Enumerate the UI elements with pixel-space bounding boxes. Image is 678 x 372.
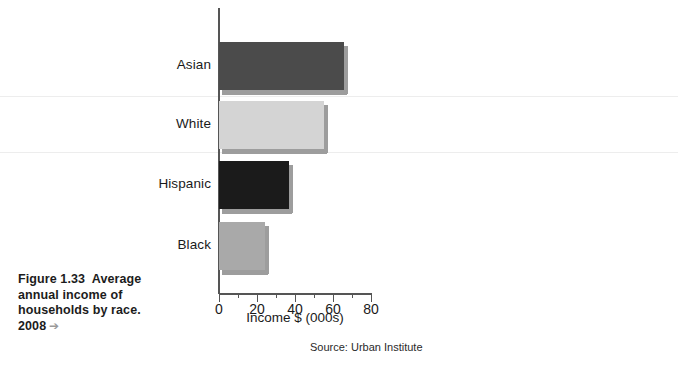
source-note: Source: Urban Institute xyxy=(310,341,423,353)
scan-artifact-line xyxy=(0,152,678,153)
arrow-right-icon: ➔ xyxy=(46,319,59,333)
x-axis-title: Income $ (000s) xyxy=(219,310,371,325)
category-label-asian: Asian xyxy=(71,57,211,72)
bar-asian xyxy=(219,42,344,90)
bar-shadow xyxy=(222,90,347,95)
bar-shadow xyxy=(222,270,268,275)
figure-container: Figure 1.33 Average annual income of hou… xyxy=(0,0,678,372)
bar-shadow xyxy=(222,149,327,154)
category-label-white: White xyxy=(71,116,211,131)
bar-shadow xyxy=(222,209,292,214)
caption-line-3: households by race. xyxy=(18,303,168,319)
bar-shadow xyxy=(344,46,348,94)
category-label-hispanic: Hispanic xyxy=(71,176,211,191)
caption-line-4: 2008➔ xyxy=(18,319,168,335)
bar-shadow xyxy=(265,226,269,274)
x-tick-minor-30 xyxy=(276,293,277,298)
caption-line-2: annual income of xyxy=(18,288,168,304)
caption-year: 2008 xyxy=(18,319,46,333)
bar-fill xyxy=(219,161,289,209)
bar-fill xyxy=(219,101,324,149)
bar-fill xyxy=(219,222,265,270)
bar-shadow xyxy=(324,105,328,153)
bar-fill xyxy=(219,42,344,90)
x-tick-minor-10 xyxy=(238,293,239,298)
figure-caption: Figure 1.33 Average annual income of hou… xyxy=(18,272,168,334)
x-tick-minor-50 xyxy=(314,293,315,298)
caption-line-1: Figure 1.33 Average xyxy=(18,272,168,288)
category-label-black: Black xyxy=(71,237,211,252)
bar-white xyxy=(219,101,324,149)
bar-black xyxy=(219,222,265,270)
scan-artifact-line xyxy=(0,96,678,97)
bar-hispanic xyxy=(219,161,289,209)
bar-shadow xyxy=(289,165,293,213)
x-tick-minor-70 xyxy=(352,293,353,298)
